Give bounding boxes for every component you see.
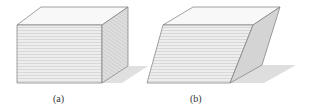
block-a-front-face: [17, 25, 102, 83]
block-b: [147, 7, 296, 83]
caption-a: (a): [53, 94, 64, 104]
block-a: [17, 7, 148, 83]
caption-b: (b): [190, 94, 202, 104]
shear-deformation-diagram: [0, 0, 312, 107]
